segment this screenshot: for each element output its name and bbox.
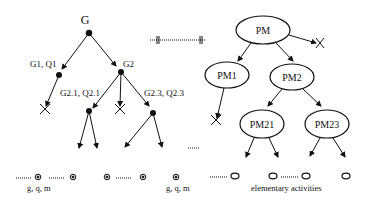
svg-text:PM: PM <box>256 25 271 36</box>
edge-g2-mid <box>120 72 121 106</box>
goal-label-g1: G1, Q1 <box>30 59 57 69</box>
svg-text:PM1: PM1 <box>217 70 236 81</box>
goal-label-g21: G2.1, Q2.1 <box>60 88 100 98</box>
edge-g-g2 <box>89 33 116 66</box>
terminate-x-icon <box>40 104 50 114</box>
svg-text:PM2: PM2 <box>282 72 301 83</box>
svg-text:PM21: PM21 <box>250 119 274 130</box>
goal-process-diagram: G G1, Q1 G2 G2.1, Q2.1 G2.3, Q2.3 <box>0 0 373 203</box>
goal-label-g23: G2.3, Q2.3 <box>144 88 184 98</box>
goal-leaf-label-1: g, q, m <box>27 183 51 193</box>
elementary-activities-caption: elementary activities <box>251 183 322 193</box>
terminate-x-icon <box>316 38 324 48</box>
goal-tree: G G1, Q1 G2 G2.1, Q2.1 G2.3, Q2.3 <box>16 13 190 193</box>
terminate-x-icon <box>211 115 221 125</box>
svg-text:PM23: PM23 <box>315 119 339 130</box>
edge-g-g1 <box>62 33 89 69</box>
process-tree: PM PM1 PM2 PM21 PM23 elementary <box>188 16 350 193</box>
goal-leaves <box>16 174 179 180</box>
goal-leaf-label-2: g, q, m <box>166 183 190 193</box>
goal-root-label: G <box>81 13 90 27</box>
edge-g1-end <box>46 75 59 106</box>
process-leaves <box>210 173 350 179</box>
mapping-connector <box>150 36 205 44</box>
goal-label-g2: G2 <box>123 59 134 69</box>
